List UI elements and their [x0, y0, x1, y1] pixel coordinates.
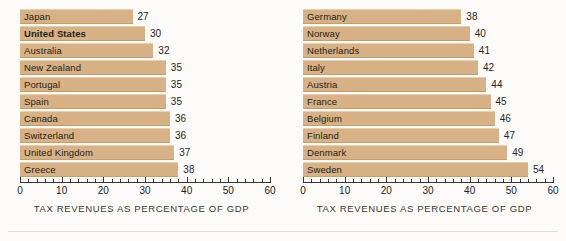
bar-value-label: 40 [475, 26, 486, 41]
axis-tick-label: 60 [264, 185, 275, 196]
bar [303, 9, 461, 24]
axis-tick-label: 30 [422, 185, 433, 196]
axis-tick-major [270, 177, 271, 182]
bar-value-label: 38 [183, 162, 194, 177]
axis-tick-minor [237, 179, 238, 182]
axis-tick-minor [137, 179, 138, 182]
bar [303, 94, 491, 109]
axis-tick-minor [153, 179, 154, 182]
bar-value-label: 41 [479, 43, 490, 58]
axis-tick-minor [503, 179, 504, 182]
axis-tick-minor [528, 179, 529, 182]
axis-tick-major [386, 177, 387, 182]
bar [20, 43, 153, 58]
bar-value-label: 35 [171, 94, 182, 109]
axis-tick-major [511, 177, 512, 182]
axis-tick-major [428, 177, 429, 182]
axis-tick-minor [162, 179, 163, 182]
bar-value-label: 35 [171, 77, 182, 92]
axis-tick-minor [212, 179, 213, 182]
axis-tick-label: 10 [339, 185, 350, 196]
axis-tick-label: 10 [56, 185, 67, 196]
axis-tick-minor [536, 179, 537, 182]
x-axis-caption-right: TAX REVENUES AS PERCENTAGE OF GDP [283, 203, 566, 214]
axis-tick-label: 40 [464, 185, 475, 196]
bar-row: United Kingdom37 [0, 145, 283, 160]
axis-tick-minor [178, 179, 179, 182]
bar-row: Austria44 [283, 77, 566, 92]
axis-tick-minor [95, 179, 96, 182]
bar [303, 26, 470, 41]
bar-value-label: 42 [483, 60, 494, 75]
axis-tick-minor [453, 179, 454, 182]
bar [20, 77, 166, 92]
bar-row: France45 [283, 94, 566, 109]
axis-tick-minor [87, 179, 88, 182]
bar-value-label: 49 [512, 145, 523, 160]
bar-value-label: 54 [533, 162, 544, 177]
bar [303, 162, 528, 177]
axis-tick-major [62, 177, 63, 182]
bar [20, 26, 145, 41]
bar-row: Japan27 [0, 9, 283, 24]
bar-row: Netherlands41 [283, 43, 566, 58]
axis-tick-minor [120, 179, 121, 182]
axis-tick-major [228, 177, 229, 182]
axis-tick-minor [78, 179, 79, 182]
bar [303, 77, 486, 92]
bar-value-label: 46 [500, 111, 511, 126]
axis-tick-minor [328, 179, 329, 182]
axis-tick-minor [70, 179, 71, 182]
bar-row: United States30 [0, 26, 283, 41]
page-divider-rule [8, 231, 558, 232]
axis-tick-label: 50 [223, 185, 234, 196]
axis-tick-major [103, 177, 104, 182]
bar-row: Germany38 [283, 9, 566, 24]
axis-tick-minor [478, 179, 479, 182]
axis-tick-minor [45, 179, 46, 182]
axis-tick-minor [220, 179, 221, 182]
axis-tick-label: 20 [98, 185, 109, 196]
bar-row: Portugal35 [0, 77, 283, 92]
axis-line [303, 182, 554, 183]
axis-tick-minor [520, 179, 521, 182]
axis-tick-label: 30 [139, 185, 150, 196]
bar [20, 145, 174, 160]
axis-tick-label: 0 [17, 185, 23, 196]
axis-tick-minor [378, 179, 379, 182]
axis-tick-minor [361, 179, 362, 182]
bar [303, 111, 495, 126]
axis-tick-major [345, 177, 346, 182]
bar-row: Spain35 [0, 94, 283, 109]
axis-tick-label: 50 [506, 185, 517, 196]
axis-tick-minor [495, 179, 496, 182]
axis-tick-minor [353, 179, 354, 182]
bar-row: New Zealand35 [0, 60, 283, 75]
bar-value-label: 36 [175, 128, 186, 143]
axis-tick-minor [253, 179, 254, 182]
bar [20, 9, 133, 24]
axis-tick-minor [245, 179, 246, 182]
bar [303, 145, 507, 160]
bar-row: Denmark49 [283, 145, 566, 160]
axis-tick-major [303, 177, 304, 182]
chart-panel-right: Germany38Norway40Netherlands41Italy42Aus… [283, 0, 566, 241]
axis-tick-minor [28, 179, 29, 182]
axis-tick-label: 20 [381, 185, 392, 196]
axis-tick-minor [195, 179, 196, 182]
bar-row: Belgium46 [283, 111, 566, 126]
bar-value-label: 37 [179, 145, 190, 160]
bar-rows-right: Germany38Norway40Netherlands41Italy42Aus… [283, 9, 566, 179]
axis-tick-label: 40 [181, 185, 192, 196]
bar-row: Switzerland36 [0, 128, 283, 143]
axis-tick-minor [436, 179, 437, 182]
bar-value-label: 36 [175, 111, 186, 126]
bar-row: Canada36 [0, 111, 283, 126]
axis-tick-minor [262, 179, 263, 182]
axis-tick-minor [128, 179, 129, 182]
x-axis-caption-left: TAX REVENUES AS PERCENTAGE OF GDP [0, 203, 283, 214]
axis-tick-minor [411, 179, 412, 182]
bar [303, 60, 478, 75]
axis-tick-minor [395, 179, 396, 182]
axis-tick-minor [53, 179, 54, 182]
